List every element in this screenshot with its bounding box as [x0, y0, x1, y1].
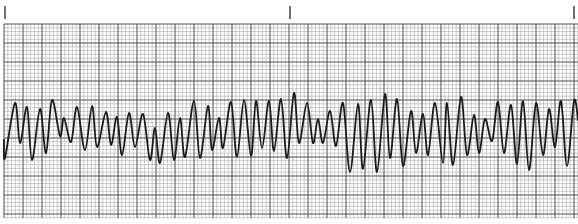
ecg-rhythm-strip	[0, 0, 578, 224]
